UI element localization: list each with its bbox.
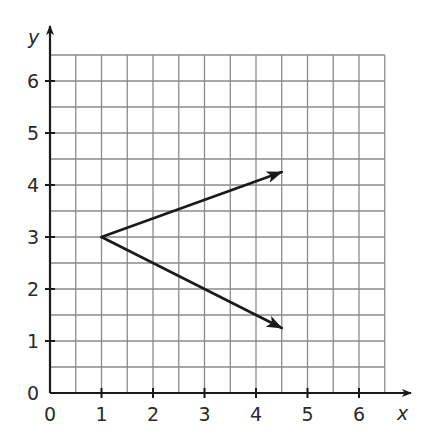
- x-tick-label: 5: [301, 403, 313, 425]
- x-tick-label: 2: [147, 403, 159, 425]
- x-tick-label: 3: [198, 403, 210, 425]
- coordinate-graph: 01234560123456 x y: [0, 0, 423, 436]
- upper-ray: [102, 172, 282, 237]
- y-tick-label: 2: [27, 278, 39, 300]
- x-tick-label: 4: [250, 403, 262, 425]
- grid: [50, 55, 385, 393]
- tick-labels: 01234560123456: [27, 70, 365, 425]
- y-tick-label: 1: [27, 330, 39, 352]
- axes: [45, 26, 411, 398]
- y-tick-label: 3: [27, 226, 39, 248]
- x-axis-label: x: [396, 402, 409, 424]
- y-tick-label: 6: [27, 70, 39, 92]
- y-tick-label: 5: [27, 122, 39, 144]
- x-tick-label: 6: [353, 403, 365, 425]
- rays: [102, 172, 282, 328]
- y-tick-label: 4: [27, 174, 39, 196]
- y-tick-label: 0: [27, 382, 39, 404]
- y-axis-label: y: [27, 26, 40, 48]
- x-tick-label: 1: [95, 403, 107, 425]
- x-tick-label: 0: [44, 403, 56, 425]
